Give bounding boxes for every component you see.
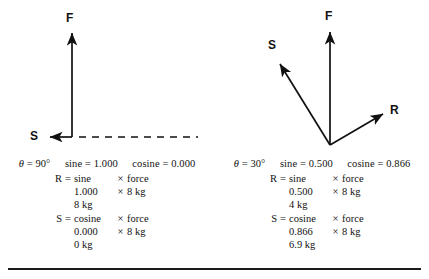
calculation-table: R = sine × force 1.000 × 8 kg 8 kg bbox=[48, 173, 149, 252]
calculation-row: S = cosine × force bbox=[48, 213, 149, 226]
cosine-value: 0.866 bbox=[386, 158, 410, 169]
vector-label-s: S bbox=[30, 130, 38, 142]
theta-symbol: θ bbox=[19, 158, 24, 169]
theta-value: 90° bbox=[35, 158, 50, 169]
calc-equals bbox=[277, 226, 289, 239]
calc-lhs bbox=[263, 199, 277, 212]
calc-operand-a: 0.866 bbox=[289, 226, 329, 239]
calc-times: × bbox=[114, 173, 127, 186]
sine-equals: = bbox=[85, 158, 91, 169]
calc-times: × bbox=[114, 186, 127, 199]
sine-label: sine bbox=[65, 158, 82, 169]
calc-times: × bbox=[329, 213, 342, 226]
calc-operand-a: cosine bbox=[289, 213, 329, 226]
calc-operand-a: cosine bbox=[74, 213, 114, 226]
cosine-equals: = bbox=[162, 158, 168, 169]
panel-30deg-text: θ = 30° sine = 0.500 cosine = 0.866 R = … bbox=[215, 158, 429, 252]
vector-label-f: F bbox=[325, 10, 332, 22]
calc-equals: = bbox=[62, 173, 74, 186]
calc-operand-b bbox=[127, 199, 149, 212]
calculation-row: 4 kg bbox=[263, 199, 364, 212]
calc-equals: = bbox=[277, 173, 289, 186]
calc-operand-a: 1.000 bbox=[74, 186, 114, 199]
cosine-label: cosine bbox=[347, 158, 374, 169]
calc-operand-a: sine bbox=[74, 173, 114, 186]
calculation-row: 1.000 × 8 kg bbox=[48, 186, 149, 199]
calc-times bbox=[114, 199, 127, 212]
vector-label-s: S bbox=[268, 39, 276, 51]
calc-equals: = bbox=[62, 213, 74, 226]
theta-row-30deg: θ = 30° sine = 0.500 cosine = 0.866 bbox=[215, 158, 429, 169]
calculation-row: S = cosine × force bbox=[263, 213, 364, 226]
sine-value: 0.500 bbox=[309, 158, 333, 169]
sine-equals: = bbox=[300, 158, 306, 169]
calc-equals bbox=[62, 226, 74, 239]
cosine-label: cosine bbox=[132, 158, 159, 169]
calc-equals bbox=[277, 239, 289, 252]
calc-lhs: S bbox=[48, 213, 62, 226]
calc-operand-b bbox=[342, 239, 364, 252]
cosine-equals: = bbox=[377, 158, 383, 169]
calc-operand-a: sine bbox=[289, 173, 329, 186]
calc-operand-b: 8 kg bbox=[127, 186, 149, 199]
calculation-block-90deg: R = sine × force 1.000 × 8 kg 8 kg bbox=[0, 173, 214, 252]
calc-operand-b: 8 kg bbox=[342, 186, 364, 199]
calc-lhs bbox=[48, 239, 62, 252]
theta-symbol: θ bbox=[234, 158, 239, 169]
vector-diagram-30deg-svg bbox=[215, 0, 429, 155]
calc-operand-b: force bbox=[342, 213, 364, 226]
calculation-row: 6.9 kg bbox=[263, 239, 364, 252]
sine-label: sine bbox=[280, 158, 297, 169]
calc-times bbox=[329, 239, 342, 252]
calculation-row: R = sine × force bbox=[263, 173, 364, 186]
calc-operand-b bbox=[127, 239, 149, 252]
calc-operand-a: 0 kg bbox=[74, 239, 114, 252]
calc-equals bbox=[277, 186, 289, 199]
calculation-row: 0.000 × 8 kg bbox=[48, 226, 149, 239]
sine-value: 1.000 bbox=[94, 158, 118, 169]
calc-operand-a: 8 kg bbox=[74, 199, 114, 212]
calc-equals bbox=[277, 199, 289, 212]
calc-lhs bbox=[48, 186, 62, 199]
calc-lhs: R bbox=[263, 173, 277, 186]
calculation-row: 8 kg bbox=[48, 199, 149, 212]
calculation-row: 0.500 × 8 kg bbox=[263, 186, 364, 199]
calc-times bbox=[114, 239, 127, 252]
calc-times: × bbox=[329, 186, 342, 199]
vector-diagram-90deg: F S bbox=[0, 0, 214, 155]
calc-lhs bbox=[263, 186, 277, 199]
calc-lhs bbox=[263, 239, 277, 252]
calculation-block-30deg: R = sine × force 0.500 × 8 kg 4 kg bbox=[215, 173, 429, 252]
bottom-divider-rule bbox=[8, 268, 421, 270]
calc-operand-b: force bbox=[127, 213, 149, 226]
calc-operand-b: 8 kg bbox=[127, 226, 149, 239]
calc-times: × bbox=[329, 226, 342, 239]
calc-operand-a: 0.000 bbox=[74, 226, 114, 239]
vector-diagram-30deg: F S R bbox=[215, 0, 429, 155]
calc-lhs: R bbox=[48, 173, 62, 186]
calc-lhs bbox=[263, 226, 277, 239]
vector-r-arrow bbox=[330, 114, 383, 145]
theta-value: 30° bbox=[250, 158, 265, 169]
panel-90deg-text: θ = 90° sine = 1.000 cosine = 0.000 R = … bbox=[0, 158, 214, 252]
cosine-value: 0.000 bbox=[171, 158, 195, 169]
calculation-row: 0 kg bbox=[48, 239, 149, 252]
calc-operand-b: force bbox=[127, 173, 149, 186]
calculation-table: R = sine × force 0.500 × 8 kg 4 kg bbox=[263, 173, 364, 252]
calc-operand-a: 4 kg bbox=[289, 199, 329, 212]
calculation-row: 0.866 × 8 kg bbox=[263, 226, 364, 239]
calc-operand-a: 6.9 kg bbox=[289, 239, 329, 252]
calc-operand-b bbox=[342, 199, 364, 212]
calc-times: × bbox=[114, 213, 127, 226]
vector-label-f: F bbox=[66, 12, 73, 24]
calc-operand-a: 0.500 bbox=[289, 186, 329, 199]
theta-equals: = bbox=[242, 158, 248, 169]
calc-operand-b: 8 kg bbox=[342, 226, 364, 239]
theta-row-90deg: θ = 90° sine = 1.000 cosine = 0.000 bbox=[0, 158, 214, 169]
calc-lhs bbox=[48, 199, 62, 212]
calc-operand-b: force bbox=[342, 173, 364, 186]
calc-times bbox=[329, 199, 342, 212]
calc-equals bbox=[62, 186, 74, 199]
calculation-row: R = sine × force bbox=[48, 173, 149, 186]
vector-label-r: R bbox=[390, 104, 399, 116]
